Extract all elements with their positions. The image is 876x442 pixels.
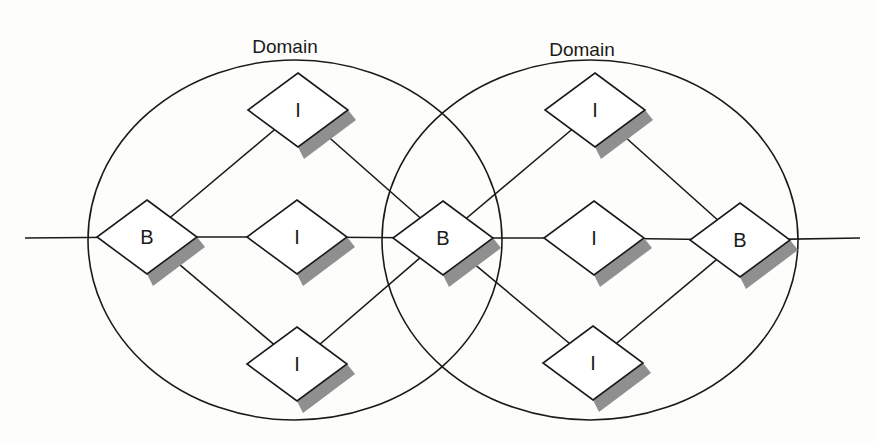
node-label: B	[436, 227, 449, 249]
node-i5-interior: I	[544, 201, 652, 287]
node-label: I	[591, 227, 597, 249]
node-label: B	[140, 226, 153, 248]
node-label: I	[295, 99, 301, 121]
domain-label-left: Domain	[252, 36, 317, 57]
node-b3-border: B	[690, 203, 798, 289]
node-label: I	[294, 226, 300, 248]
node-label: I	[592, 99, 598, 121]
node-i4-interior: I	[545, 73, 653, 159]
node-i2-interior: I	[247, 200, 355, 286]
node-label: I	[590, 352, 596, 374]
node-label: B	[733, 229, 746, 251]
domain-labels: Domain Domain	[252, 36, 614, 60]
node-b2-border: B	[393, 201, 501, 287]
domain-label-right: Domain	[549, 39, 614, 60]
diagram-svg: BIIIBIIIB Domain Domain	[0, 0, 876, 442]
node-i6-interior: I	[543, 326, 651, 412]
node-label: I	[294, 353, 300, 375]
domain-diagram: BIIIBIIIB Domain Domain	[0, 0, 876, 442]
node-i3-interior: I	[247, 327, 355, 413]
